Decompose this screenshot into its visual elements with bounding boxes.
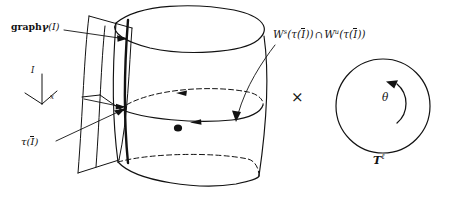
intersection-symbol: ∩: [314, 29, 324, 40]
w-stable: W: [273, 28, 284, 40]
torus-label: Tℓ: [373, 152, 385, 166]
figure-canvas: graphγ(I) τ(I) Ws(τ(I))∩Wu(τ(I)) × θ Tℓ …: [0, 0, 453, 204]
orbit-back-arc: [120, 89, 263, 109]
torus-circle: [336, 59, 430, 153]
product-symbol: ×: [291, 90, 304, 105]
leader-graph-gamma: [64, 30, 119, 38]
cylinder-bottom-back-arc: [118, 154, 259, 176]
fixed-point-dot: [174, 124, 182, 131]
w-unstable: W: [324, 28, 335, 40]
leader-tau-ibar: [56, 112, 118, 141]
label-graph-gamma: graphγ(I): [11, 22, 60, 32]
graph-arg-close: ): [56, 21, 60, 32]
orbit-front-arc: [120, 105, 263, 121]
axis-label-x: x: [50, 93, 54, 100]
theta-arc-arrow: [397, 84, 406, 123]
cylinder-body: [113, 6, 267, 186]
tau-close-paren: ): [34, 136, 38, 147]
theta-label: θ: [382, 92, 388, 103]
axis-label-i: I: [31, 66, 34, 75]
torus-superscript: ℓ: [381, 151, 384, 161]
label-graph-text: graph: [11, 21, 42, 32]
orbit-front-arrowhead: [190, 119, 202, 125]
wu-close-paren: ): [362, 28, 366, 40]
theta-arc-arrowhead: [386, 80, 398, 88]
leader-manifolds: [238, 45, 275, 114]
label-tau-ibar: τ(I): [21, 136, 38, 147]
torus-base: T: [373, 154, 381, 167]
orbit-back-arrowhead: [176, 91, 187, 96]
label-manifolds: Ws(τ(I))∩Wu(τ(I)): [273, 28, 366, 40]
